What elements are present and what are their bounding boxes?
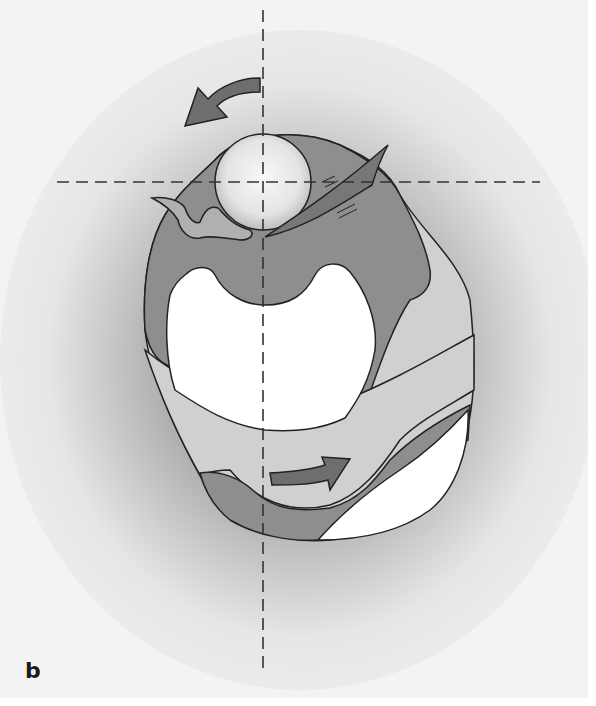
figure-frame (0, 0, 588, 698)
figure-illustration (0, 0, 588, 698)
panel-label: b (25, 658, 41, 683)
